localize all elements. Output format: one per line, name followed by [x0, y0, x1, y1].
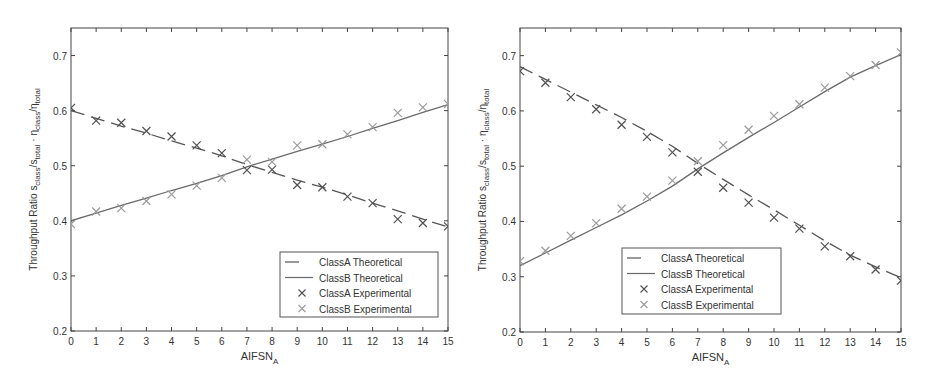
y-tick-label: 0.6 [53, 106, 67, 117]
y-tick-label: 0.6 [502, 106, 516, 117]
x-tick-label: 2 [568, 337, 574, 348]
y-axis-label: Throughput Ratio sclass/stotal · ηclass/… [28, 88, 42, 271]
y-tick-label: 0.5 [53, 161, 67, 172]
legend-label: ClassB Experimental [661, 300, 754, 311]
legend-label: ClassA Theoretical [661, 253, 744, 264]
x-tick-label: 7 [244, 336, 250, 347]
y-axis-label: Throughput Ratio sclass/stotal · ηclass/… [477, 89, 491, 272]
legend: ClassA TheoreticalClassB TheoreticalClas… [280, 252, 438, 317]
x-axis-label: AIFSNA [692, 351, 730, 367]
x-tick-label: 13 [392, 336, 404, 347]
y-tick-label: 0.7 [53, 51, 67, 62]
y-tick-label: 0.7 [502, 51, 516, 62]
x-tick-label: 15 [442, 336, 454, 347]
x-tick-label: 6 [670, 337, 676, 348]
x-tick-label: 0 [517, 337, 523, 348]
y-tick-label: 0.4 [502, 216, 516, 227]
legend-label: ClassB Experimental [319, 304, 412, 315]
x-tick-label: 12 [367, 336, 379, 347]
x-tick-label: 10 [768, 337, 780, 348]
x-tick-label: 5 [194, 336, 200, 347]
x-tick-label: 11 [794, 337, 805, 348]
x-tick-label: 3 [593, 337, 599, 348]
legend-label: ClassA Theoretical [319, 257, 402, 268]
x-tick-label: 10 [317, 336, 329, 347]
legend-label: ClassA Experimental [661, 284, 753, 295]
chart-right: 01234567891011121314150.20.30.40.50.60.7… [468, 0, 936, 384]
y-tick-label: 0.3 [502, 272, 516, 283]
x-tick-label: 4 [619, 337, 625, 348]
x-tick-label: 13 [845, 337, 857, 348]
x-tick-label: 5 [644, 337, 650, 348]
y-tick-label: 0.3 [53, 271, 67, 282]
x-tick-label: 6 [219, 336, 225, 347]
y-tick-label: 0.4 [53, 216, 67, 227]
x-tick-label: 7 [695, 337, 701, 348]
legend-label: ClassB Theoretical [319, 273, 403, 284]
x-tick-label: 14 [417, 336, 429, 347]
x-tick-label: 8 [269, 336, 275, 347]
chart-left: 01234567891011121314150.20.30.40.50.60.7… [0, 0, 468, 384]
y-tick-label: 0.2 [502, 327, 516, 338]
x-tick-label: 3 [144, 336, 150, 347]
chart-right-svg: 01234567891011121314150.20.30.40.50.60.7… [468, 0, 937, 384]
legend-label: ClassB Theoretical [661, 269, 745, 280]
chart-left-svg: 01234567891011121314150.20.30.40.50.60.7… [0, 0, 468, 384]
x-tick-label: 4 [169, 336, 175, 347]
x-tick-label: 2 [118, 336, 124, 347]
x-tick-label: 15 [895, 337, 907, 348]
x-tick-label: 11 [342, 336, 353, 347]
x-tick-label: 1 [93, 336, 99, 347]
x-tick-label: 9 [294, 336, 300, 347]
x-tick-label: 12 [819, 337, 831, 348]
x-tick-label: 9 [746, 337, 752, 348]
y-tick-label: 0.5 [502, 161, 516, 172]
x-tick-label: 14 [870, 337, 882, 348]
x-tick-label: 8 [720, 337, 726, 348]
legend-label: ClassA Experimental [319, 288, 411, 299]
x-tick-label: 1 [543, 337, 549, 348]
legend: ClassA TheoreticalClassB TheoreticalClas… [622, 248, 781, 314]
x-axis-label: AIFSNA [241, 350, 279, 366]
y-tick-label: 0.2 [53, 326, 67, 337]
x-tick-label: 0 [68, 336, 74, 347]
